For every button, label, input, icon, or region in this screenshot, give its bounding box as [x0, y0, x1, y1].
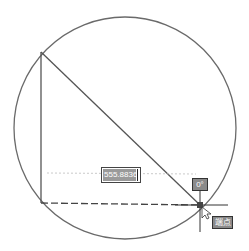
text-caret — [137, 169, 138, 181]
cursor-arrow-icon — [202, 207, 211, 219]
dimension-value: 555.8836 — [103, 169, 136, 181]
snap-tooltip: 端点 — [212, 216, 233, 229]
drawing-geometry — [0, 0, 249, 251]
dimension-input-field[interactable]: 555.8836 — [101, 167, 141, 183]
drawing-canvas[interactable]: 555.8836 0° 端点 — [0, 0, 249, 251]
angle-tooltip: 0° — [192, 178, 208, 191]
